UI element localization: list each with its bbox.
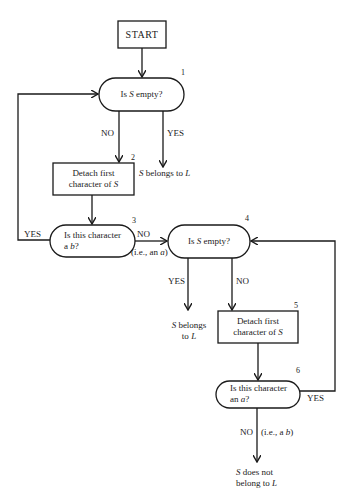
var-l: L — [191, 331, 196, 341]
node-1-number: 1 — [181, 68, 185, 77]
process-2-text: Detach first character of S — [53, 168, 134, 190]
text: belong to — [236, 478, 272, 488]
text: empty? — [134, 89, 163, 99]
decision-6-text: Is this character an a? — [230, 383, 287, 405]
var-s: S — [278, 327, 283, 337]
edge-n4-no-label: NO — [236, 276, 249, 287]
node-5-number: 5 — [294, 301, 298, 310]
text: Detach first — [218, 316, 298, 327]
flowchart-canvas — [0, 0, 353, 496]
text: belongs to — [144, 168, 186, 178]
text: character of — [233, 327, 278, 337]
start-label: START — [118, 29, 166, 40]
decision-1-text: Is S empty? — [99, 89, 184, 100]
text: Is this character — [230, 383, 287, 394]
node-6-number: 6 — [296, 366, 300, 375]
edge-n1-no-label: NO — [101, 128, 114, 139]
text: empty? — [201, 236, 230, 246]
text: Is this character — [64, 230, 121, 241]
text: ) — [290, 427, 293, 437]
edge-n6-yes-label: YES — [307, 393, 324, 404]
outcome-4-text: S belongs to L — [163, 320, 215, 342]
text: ? — [75, 241, 79, 251]
var-l: L — [185, 168, 190, 178]
text: ) — [165, 247, 168, 257]
text: an — [230, 394, 241, 404]
text: does not — [241, 467, 274, 477]
edge-n6-no-label: NO — [240, 427, 253, 438]
process-5-text: Detach first character of S — [218, 316, 298, 338]
edge-n6-no-note: (i.e., a b) — [261, 427, 293, 438]
outcome-1-text: S belongs to L — [139, 168, 190, 179]
decision-4-text: Is S empty? — [168, 236, 250, 247]
edge-n3-no-label: NO — [137, 229, 150, 240]
text: to — [182, 331, 191, 341]
var-l: L — [272, 478, 277, 488]
text: Is — [188, 236, 197, 246]
text: Detach first — [53, 168, 134, 179]
edge-n1-yes-label: YES — [167, 128, 184, 139]
outcome-6-text: S does not belong to L — [236, 467, 277, 489]
text: character of — [69, 179, 114, 189]
var-s: S — [114, 179, 119, 189]
text: ? — [245, 394, 249, 404]
node-4-number: 4 — [245, 214, 249, 223]
edge-n4-yes-label: YES — [168, 276, 185, 287]
node-3-number: 3 — [132, 216, 136, 225]
text: (i.e., an — [131, 247, 160, 257]
node-2-number: 2 — [131, 153, 135, 162]
edge-n3-no-note: (i.e., an a) — [131, 247, 168, 258]
text: (i.e., a — [261, 427, 286, 437]
edge-n3-yes-loop — [18, 94, 98, 240]
edge-n3-yes-label: YES — [24, 229, 41, 240]
text: Is — [121, 89, 130, 99]
text: belongs — [176, 320, 206, 330]
decision-3-text: Is this character a b? — [64, 230, 121, 252]
